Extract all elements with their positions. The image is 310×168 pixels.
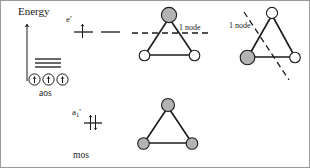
- aos-orbital-2: [43, 74, 54, 85]
- lobe-top-shaded: [161, 7, 176, 22]
- lobe-bottom-left-shaded: [240, 50, 255, 65]
- mo-diagram-figure: Energy aos mos e' a1' 1 node 1 node: [0, 0, 310, 168]
- lobe-bottom-left-empty: [139, 50, 150, 61]
- aos-orbital-3: [57, 74, 68, 85]
- lobe-bottom-right-shaded: [186, 138, 198, 150]
- lobe-top-shaded: [162, 99, 175, 112]
- mo-diagram-e-prime-horizontal: [132, 7, 211, 60]
- aos-orbital-circles: [29, 74, 68, 85]
- mo-diagram-a1-prime: [138, 99, 198, 150]
- aos-degenerate-levels: [35, 59, 61, 67]
- diagram-canvas: [1, 1, 310, 168]
- a1-prime-energy-level: [84, 115, 102, 130]
- e-prime-energy-levels: [74, 24, 120, 38]
- node-line-diagonal: [244, 12, 289, 80]
- lobe-bottom-right-empty: [189, 50, 200, 61]
- lobe-bottom-right-empty: [290, 52, 301, 63]
- lobe-top-empty: [266, 7, 277, 18]
- aos-orbital-1: [29, 74, 40, 85]
- lobe-bottom-left-shaded: [138, 138, 150, 150]
- mo-diagram-e-prime-diagonal: [240, 7, 300, 80]
